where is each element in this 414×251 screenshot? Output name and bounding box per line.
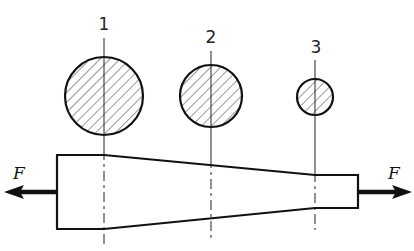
right-force-label: F (387, 163, 401, 183)
right-force-arrow (358, 185, 412, 199)
tapered-bar (57, 155, 358, 229)
section-label-3: 3 (311, 37, 322, 57)
section-label-2: 2 (206, 27, 217, 47)
left-force-arrow (4, 185, 57, 199)
tapered-bar-diagram: 1 2 3 F F (0, 0, 414, 251)
left-force-label: F (12, 163, 26, 183)
section-label-1: 1 (99, 14, 110, 34)
